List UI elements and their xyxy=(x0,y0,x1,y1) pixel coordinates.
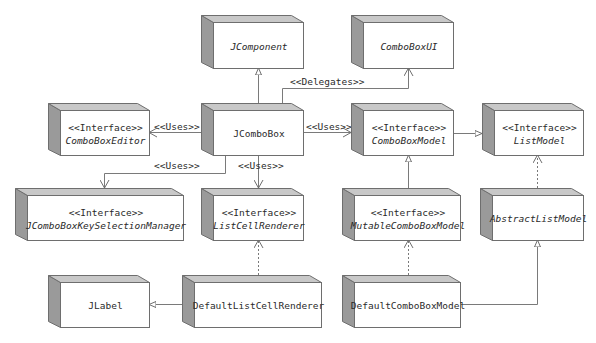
stereotype: <<Interface>> xyxy=(222,206,296,219)
edge-defaultmodel-abstractlistmodel xyxy=(460,240,538,305)
class-label: <<Interface>> ListModel xyxy=(495,111,584,156)
class-box-keyselectionmanager[interactable]: <<Interface>> JComboBoxKeySelectionManag… xyxy=(15,188,184,241)
class-name: ListModel xyxy=(514,134,565,147)
stereotype: <<Interface>> xyxy=(372,121,446,134)
uml-class-diagram: <<Delegates>> <<Uses>> <<Uses>> <<Uses>>… xyxy=(0,0,596,343)
stereotype: <<Interface>> xyxy=(69,206,143,219)
class-box-jcombobox[interactable]: JComboBox xyxy=(201,103,304,156)
edge-label-uses-renderer: <<Uses>> xyxy=(238,160,284,172)
class-label: DefaultListCellRenderer xyxy=(195,283,322,328)
class-name: AbstractListModel xyxy=(490,212,587,225)
class-box-comboboxmodel[interactable]: <<Interface>> ComboBoxModel xyxy=(351,103,454,156)
class-label: <<Interface>> MutableComboBoxModel xyxy=(355,196,461,241)
class-name: DefaultListCellRenderer xyxy=(193,299,325,312)
class-name: DefaultComboBoxModel xyxy=(351,299,465,312)
stereotype: <<Interface>> xyxy=(371,206,445,219)
class-label: <<Interface>> ComboBoxEditor xyxy=(61,111,150,156)
class-label: <<Interface>> ComboBoxModel xyxy=(364,111,454,156)
class-label: <<Interface>> ListCellRenderer xyxy=(214,196,304,241)
class-name: JComponent xyxy=(230,40,287,53)
edge-label-uses-model: <<Uses>> xyxy=(306,121,352,133)
class-name: JLabel xyxy=(88,299,122,312)
class-name: JComboBoxKeySelectionManager xyxy=(26,219,186,232)
class-box-jcomponent[interactable]: JComponent xyxy=(201,15,304,69)
class-label: <<Interface>> JComboBoxKeySelectionManag… xyxy=(28,196,184,241)
class-name: ComboBoxModel xyxy=(372,134,446,147)
class-label: ComboBoxUI xyxy=(364,23,454,69)
class-name: JComboBox xyxy=(233,127,284,140)
class-box-defaultcomboboxmodel[interactable]: DefaultComboBoxModel xyxy=(342,275,461,328)
class-box-jlabel[interactable]: JLabel xyxy=(48,275,150,328)
class-name: ComboBoxUI xyxy=(380,40,437,53)
class-box-mutablecomboboxmodel[interactable]: <<Interface>> MutableComboBoxModel xyxy=(342,188,461,241)
class-box-listcellrenderer[interactable]: <<Interface>> ListCellRenderer xyxy=(201,188,304,241)
stereotype: <<Interface>> xyxy=(68,121,142,134)
class-label: DefaultComboBoxModel xyxy=(355,283,461,328)
edge-label-uses-keyselection: <<Uses>> xyxy=(154,160,200,172)
class-box-abstractlistmodel[interactable]: AbstractListModel xyxy=(480,188,584,241)
class-name: MutableComboBoxModel xyxy=(351,219,465,232)
class-label: JComponent xyxy=(214,23,304,69)
class-box-comboboxui[interactable]: ComboBoxUI xyxy=(351,15,454,69)
class-name: ListCellRenderer xyxy=(213,219,305,232)
stereotype: <<Interface>> xyxy=(502,121,576,134)
edge-label-uses-editor: <<Uses>> xyxy=(154,121,200,133)
class-box-comboboxeditor[interactable]: <<Interface>> ComboBoxEditor xyxy=(48,103,150,156)
class-name: ComboBoxEditor xyxy=(65,134,145,147)
class-label: JComboBox xyxy=(214,111,304,156)
class-label: JLabel xyxy=(61,283,150,328)
class-box-listmodel[interactable]: <<Interface>> ListModel xyxy=(482,103,584,156)
class-label: AbstractListModel xyxy=(493,196,584,241)
class-box-defaultlistcellrenderer[interactable]: DefaultListCellRenderer xyxy=(182,275,322,328)
edge-label-delegates: <<Delegates>> xyxy=(290,76,364,88)
